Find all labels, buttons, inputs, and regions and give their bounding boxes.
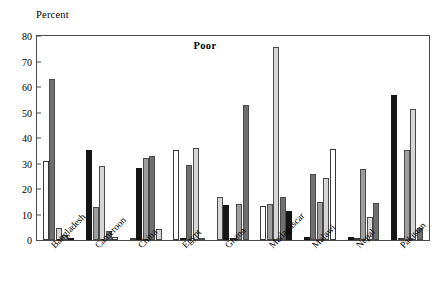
y-axis-title: Percent — [36, 9, 69, 20]
bar — [99, 166, 105, 240]
bar — [199, 238, 205, 240]
y-tick-mark — [37, 36, 41, 37]
bar — [391, 95, 397, 240]
y-tick-label: 10 — [2, 209, 37, 220]
bar — [173, 150, 179, 240]
bar — [49, 79, 55, 240]
bar — [410, 109, 416, 240]
plot-area: Poor 01020304050607080 — [36, 35, 430, 241]
bar-group — [298, 36, 342, 240]
bar — [186, 165, 192, 240]
bar — [217, 197, 223, 240]
bar — [86, 150, 92, 240]
y-tick-label: 0 — [2, 235, 37, 246]
y-tick-label: 30 — [2, 158, 37, 169]
bar-group — [168, 36, 212, 240]
bar-group — [211, 36, 255, 240]
y-tick-mark — [37, 214, 41, 215]
bar — [310, 174, 316, 240]
bar — [223, 205, 229, 240]
bar-group — [385, 36, 429, 240]
y-tick-mark — [37, 61, 41, 62]
bar — [130, 238, 136, 240]
bar-group — [81, 36, 125, 240]
y-tick-label: 20 — [2, 184, 37, 195]
y-tick-mark — [37, 112, 41, 113]
bar — [43, 161, 49, 240]
bar — [348, 237, 354, 240]
bar — [404, 150, 410, 240]
bar — [243, 105, 249, 240]
y-tick-mark — [37, 87, 41, 88]
bar-group — [255, 36, 299, 240]
y-tick-label: 50 — [2, 107, 37, 118]
bar — [260, 206, 266, 240]
y-tick-label: 60 — [2, 82, 37, 93]
bar — [267, 204, 273, 240]
x-axis-labels: BangladeshCameroonChinaEgyptGhanaMadagas… — [36, 243, 430, 303]
bar — [93, 207, 99, 240]
bar — [136, 168, 142, 240]
bar — [360, 169, 366, 240]
bar — [273, 47, 279, 240]
bar — [304, 237, 310, 240]
bar — [68, 238, 74, 240]
bar-group — [342, 36, 386, 240]
y-tick-mark — [37, 163, 41, 164]
bar-series-container — [37, 36, 429, 240]
y-tick-label: 70 — [2, 56, 37, 67]
y-tick-label: 40 — [2, 133, 37, 144]
bar — [143, 158, 149, 240]
bar — [112, 237, 118, 240]
bar-group — [124, 36, 168, 240]
chart-root: Percent Poor 01020304050607080 Banglades… — [0, 0, 443, 306]
bar-group — [37, 36, 81, 240]
y-tick-mark — [37, 189, 41, 190]
y-tick-label: 80 — [2, 31, 37, 42]
y-tick-mark — [37, 138, 41, 139]
